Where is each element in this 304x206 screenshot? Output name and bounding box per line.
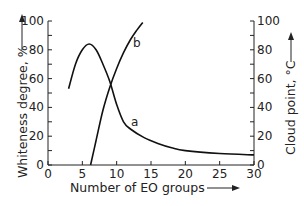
x-axis-arrow xyxy=(207,185,240,191)
y-left-tick-label: 0 xyxy=(36,158,44,172)
x-tick-label: 0 xyxy=(44,167,52,181)
y-left-tick-label: 20 xyxy=(29,129,44,143)
axes xyxy=(48,21,254,165)
y-axis-left-label: Whiteness degree, % xyxy=(15,45,30,178)
x-tick-label: 15 xyxy=(143,167,158,181)
y-right-tick-label: 20 xyxy=(257,129,272,143)
y-left-tick-label: 60 xyxy=(29,72,44,86)
chart: 051015202530020406080100020406080100ab N… xyxy=(0,0,304,206)
data-curves xyxy=(69,22,254,165)
tick-labels: 051015202530020406080100020406080100ab xyxy=(21,14,280,181)
y-right-tick-label: 80 xyxy=(257,43,272,57)
y-axis-right-label: Cloud point, °C xyxy=(283,60,298,155)
x-tick-label: 10 xyxy=(109,167,124,181)
x-tick-label: 25 xyxy=(212,167,227,181)
series-a-label: a xyxy=(131,115,138,129)
y-right-tick-label: 0 xyxy=(257,158,265,172)
x-axis-label: Number of EO groups xyxy=(70,180,205,195)
x-tick-label: 5 xyxy=(79,167,87,181)
y-right-tick-label: 40 xyxy=(257,100,272,114)
y-left-tick-label: 80 xyxy=(29,43,44,57)
y-right-tick-label: 100 xyxy=(257,14,280,28)
y-right-tick-label: 60 xyxy=(257,72,272,86)
y-left-tick-label: 40 xyxy=(29,100,44,114)
series-b-label: b xyxy=(133,36,141,50)
x-tick-label: 20 xyxy=(178,167,193,181)
y-axis-right-arrow xyxy=(288,32,294,62)
